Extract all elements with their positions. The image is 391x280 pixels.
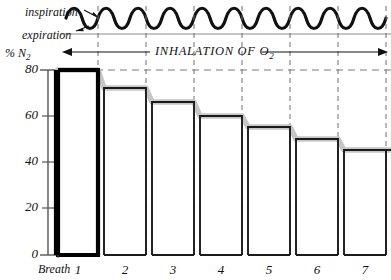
- x-tick-label-3: 3: [160, 262, 186, 278]
- x-tick-label-6: 6: [304, 262, 330, 278]
- y-axis-title: % N2: [5, 46, 31, 62]
- x-tick-label-2: 2: [112, 262, 138, 278]
- n2-step-trace: [104, 88, 391, 255]
- x-tick-label-1: 1: [65, 262, 91, 278]
- inspiration-pointer: [84, 10, 99, 18]
- inhalation-label-subscript: 2: [269, 51, 274, 61]
- expiration-label: expiration: [22, 28, 71, 43]
- y-tick-label-40: 40: [8, 153, 38, 169]
- y-tick-label-20: 20: [8, 199, 38, 215]
- inhalation-label: INHALATION OF O2: [155, 44, 274, 61]
- trend-envelope: [58, 70, 391, 150]
- y-tick-label-60: 60: [8, 107, 38, 123]
- inhalation-label-text: INHALATION OF O: [155, 44, 269, 58]
- inspiration-label: inspiration: [25, 5, 78, 20]
- y-axis-title-text: % N: [5, 46, 26, 60]
- x-tick-label-5: 5: [256, 262, 282, 278]
- n2-step-trace-breath-1-emphasis: [56, 70, 98, 255]
- x-tick-label-7: 7: [352, 262, 378, 278]
- y-tick-label-80: 80: [8, 61, 38, 77]
- y-tick-label-0: 0: [8, 246, 38, 262]
- x-tick-label-4: 4: [208, 262, 234, 278]
